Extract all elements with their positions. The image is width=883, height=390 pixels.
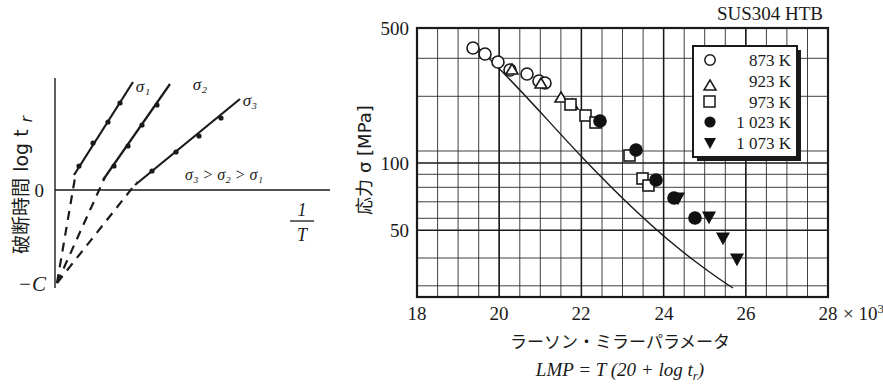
data-point-873K [521,68,533,80]
y-tick-label-500: 500 [381,18,410,39]
data-point-873K [492,56,504,68]
data-point-873K [467,42,479,54]
left-x-axis-label-numerator: 1 [298,200,307,220]
figure-svg: 破断時間 log t r 0 −C σ₁ σ₂ σ₃ σ₃ > σ₂ > σ₁ … [0,0,883,390]
legend-marker-open-square-icon [704,96,715,107]
legend-box-shadow [797,50,801,161]
x-tick-label-26: 26 [737,303,756,324]
data-point-1023K [594,115,606,127]
x-tick-label-28: 28 [819,303,838,324]
data-point-1023K [650,174,662,186]
left-data-point [173,149,178,154]
y-tick-label-100: 100 [381,153,410,174]
legend-label-1073K: 1 073 K [736,134,792,153]
left-data-point [149,168,154,173]
data-point-1023K [630,144,642,156]
x-axis-formula: LMP = T (20 + log tr) [535,359,704,383]
left-data-point [117,100,122,105]
data-point-1023K [689,212,701,224]
legend-label-973K: 973 K [749,93,792,112]
legend-label-873K: 873 K [749,51,792,70]
data-point-973K [565,99,576,110]
legend-marker-open-circle-icon [705,55,715,65]
left-origin-label: 0 [35,180,45,201]
left-data-point [154,102,159,107]
figure-root: 破断時間 log t r 0 −C σ₁ σ₂ σ₃ σ₃ > σ₂ > σ₁ … [0,0,883,390]
left-curve-label-sigma1: σ₁ [136,77,150,96]
left-inequality-note: σ₃ > σ₂ > σ₁ [185,166,263,183]
y-axis-title: 応力 σ [MPa] [354,105,375,215]
y-tick-label-50: 50 [390,220,409,241]
legend-label-1023K: 1 023 K [736,113,792,132]
left-data-point [76,163,81,168]
left-data-point [218,115,223,120]
x-axis-exponent: × 103 [843,301,883,324]
data-point-873K [479,48,491,60]
x-axis-title: ラーソン・ミラーパラメータ [510,332,730,352]
legend: 873 K 923 K 973 K 1 023 K 1 073 K [693,46,801,161]
chart-title: SUS304 HTB [717,3,823,24]
legend-box-shadow [697,157,801,161]
left-intercept-label: −C [18,272,47,296]
legend-label-923K: 923 K [749,72,792,91]
left-data-point [196,133,201,138]
left-curve-label-sigma2: σ₂ [193,75,207,94]
left-data-point [111,163,116,168]
left-curve-label-sigma3: σ₃ [243,91,257,110]
x-tick-label-18: 18 [408,303,427,324]
left-data-point [139,122,144,127]
left-data-point [125,143,130,148]
x-tick-label-24: 24 [655,303,675,324]
legend-marker-filled-circle-icon [704,116,715,127]
left-data-point [90,140,95,145]
x-tick-label-22: 22 [572,303,591,324]
left-data-point [105,119,110,124]
x-tick-label-20: 20 [490,303,509,324]
